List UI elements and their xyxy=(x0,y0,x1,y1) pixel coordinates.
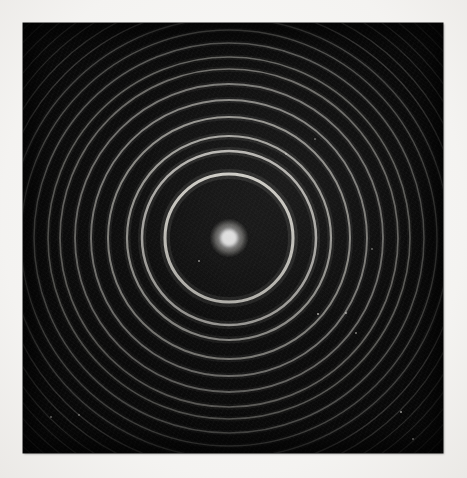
figure-root xyxy=(0,0,467,478)
figure-caption xyxy=(23,458,443,474)
photographic-plate xyxy=(23,23,443,453)
central-spot xyxy=(209,218,248,257)
central-spot-core xyxy=(221,230,238,247)
concentric-ring-pattern xyxy=(23,23,443,453)
